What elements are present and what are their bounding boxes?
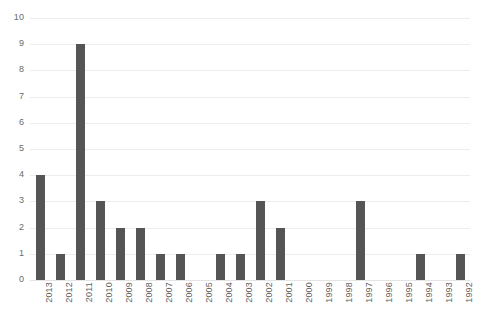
bar-2004 (216, 254, 225, 280)
bar-chart: 012345678910 201320122011201020092008200… (0, 0, 487, 330)
x-axis-tick-1995: 1995 (404, 282, 414, 326)
bar-series (30, 18, 470, 280)
bar-2012 (56, 254, 65, 280)
x-axis-tick-1997: 1997 (364, 282, 374, 326)
x-axis-tick-2011: 2011 (84, 282, 94, 326)
x-axis-tick-2010: 2010 (104, 282, 114, 326)
y-axis-tick-6: 6 (2, 118, 24, 127)
bar-2013 (36, 175, 45, 280)
y-axis-tick-10: 10 (2, 13, 24, 22)
x-axis-tick-2005: 2005 (204, 282, 214, 326)
y-axis-tick-5: 5 (2, 144, 24, 153)
x-axis-labels: 2013201220112010200920082007200620052004… (30, 282, 470, 330)
y-axis-tick-7: 7 (2, 92, 24, 101)
x-axis-tick-1992: 1992 (464, 282, 474, 326)
y-axis-tick-1: 1 (2, 249, 24, 258)
y-axis-tick-8: 8 (2, 65, 24, 74)
y-axis-tick-3: 3 (2, 196, 24, 205)
bar-2008 (136, 228, 145, 280)
bar-1992 (456, 254, 465, 280)
bar-1994 (416, 254, 425, 280)
x-axis-tick-2001: 2001 (284, 282, 294, 326)
x-axis-tick-1993: 1993 (444, 282, 454, 326)
x-axis-tick-2004: 2004 (224, 282, 234, 326)
bar-2009 (116, 228, 125, 280)
bar-2003 (236, 254, 245, 280)
x-axis-tick-2000: 2000 (304, 282, 314, 326)
bar-2011 (76, 44, 85, 280)
x-axis-tick-2007: 2007 (164, 282, 174, 326)
x-axis-tick-1994: 1994 (424, 282, 434, 326)
x-axis-tick-2006: 2006 (184, 282, 194, 326)
bar-1997 (356, 201, 365, 280)
bar-2006 (176, 254, 185, 280)
bar-2002 (256, 201, 265, 280)
gridline-0 (30, 280, 470, 281)
y-axis-tick-9: 9 (2, 39, 24, 48)
bar-2010 (96, 201, 105, 280)
x-axis-tick-2009: 2009 (124, 282, 134, 326)
x-axis-tick-1996: 1996 (384, 282, 394, 326)
x-axis-tick-2013: 2013 (44, 282, 54, 326)
y-axis-tick-0: 0 (2, 275, 24, 284)
bar-2001 (276, 228, 285, 280)
bar-2007 (156, 254, 165, 280)
y-axis-tick-2: 2 (2, 223, 24, 232)
x-axis-tick-2008: 2008 (144, 282, 154, 326)
x-axis-tick-2002: 2002 (264, 282, 274, 326)
x-axis-tick-2003: 2003 (244, 282, 254, 326)
x-axis-tick-1998: 1998 (344, 282, 354, 326)
x-axis-tick-1999: 1999 (324, 282, 334, 326)
x-axis-tick-2012: 2012 (64, 282, 74, 326)
y-axis-tick-4: 4 (2, 170, 24, 179)
